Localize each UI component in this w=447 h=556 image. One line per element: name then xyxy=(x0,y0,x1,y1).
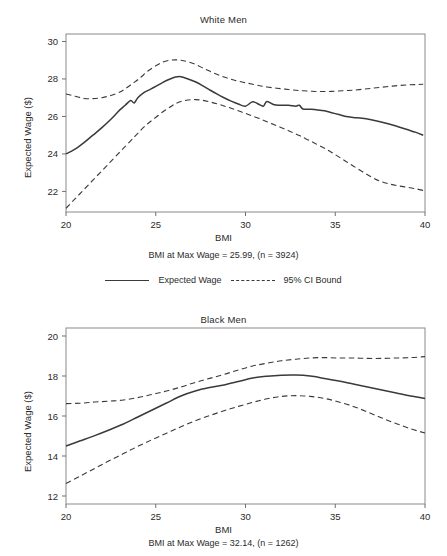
plot-area-white-men: 22242628302025303540 xyxy=(0,0,447,232)
y-tick-label: 28 xyxy=(47,73,58,84)
x-tick-label: 35 xyxy=(330,219,341,230)
solid-line-icon xyxy=(105,280,149,281)
x-axis-label-white-men: BMI xyxy=(0,232,447,243)
y-tick-label: 24 xyxy=(47,148,58,159)
series-line-expected-wage xyxy=(66,375,425,446)
chart-caption-black-men: BMI at Max Wage = 32.14, (n = 1262) xyxy=(0,538,447,548)
series-line-ci-bound xyxy=(66,60,423,99)
chart-panel-black-men: Black Men Expected Wage ($) 121416182020… xyxy=(0,300,447,556)
x-tick-label: 40 xyxy=(420,219,431,230)
y-tick-label: 12 xyxy=(47,491,58,502)
series-line-ci-bound xyxy=(66,100,423,209)
y-tick-label: 22 xyxy=(47,186,58,197)
y-tick-label: 30 xyxy=(47,36,58,47)
y-tick-label: 18 xyxy=(47,371,58,382)
x-tick-label: 20 xyxy=(61,511,72,522)
x-tick-label: 40 xyxy=(420,511,431,522)
series-line-ci-bound xyxy=(66,396,425,484)
chart-panel-white-men: White Men Expected Wage ($) 222426283020… xyxy=(0,0,447,300)
y-tick-label: 14 xyxy=(47,451,58,462)
dashed-line-icon xyxy=(231,280,275,281)
y-tick-label: 20 xyxy=(47,331,58,342)
x-tick-label: 20 xyxy=(61,219,72,230)
plot-area-black-men: 12141618202025303540 xyxy=(0,300,447,532)
x-tick-label: 25 xyxy=(150,511,161,522)
x-tick-label: 35 xyxy=(330,511,341,522)
x-axis-label-black-men: BMI xyxy=(0,524,447,535)
legend-label-expected-wage: Expected Wage xyxy=(158,275,221,285)
y-tick-label: 26 xyxy=(47,111,58,122)
chart-legend: Expected Wage 95% CI Bound xyxy=(0,275,447,285)
y-tick-label: 16 xyxy=(47,411,58,422)
x-tick-label: 30 xyxy=(240,511,251,522)
chart-caption-white-men: BMI at Max Wage = 25.99, (n = 3924) xyxy=(0,250,447,260)
legend-label-ci-bound: 95% CI Bound xyxy=(284,275,342,285)
x-tick-label: 25 xyxy=(150,219,161,230)
x-tick-label: 30 xyxy=(240,219,251,230)
